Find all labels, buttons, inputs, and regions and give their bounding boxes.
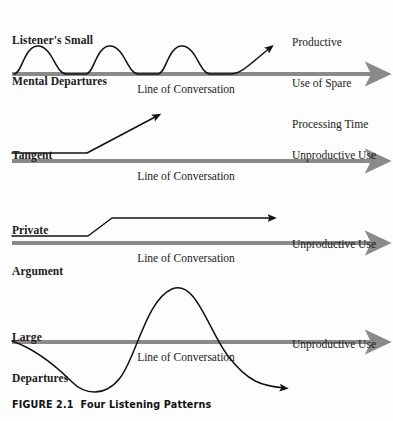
panel-2-left-label: Tangent — [12, 122, 53, 190]
panel-3-right-label-line1: Unproductive Use — [292, 238, 376, 252]
panel-2-right-label: Unproductive Use — [292, 122, 376, 190]
panel-4-right-label-line1: Unproductive Use — [292, 338, 376, 352]
panel-4-left-label: Large Departures — [12, 304, 68, 413]
panel-2-left-label-line1: Tangent — [12, 149, 53, 163]
panel-1-left-label-line2: Mental Departures — [12, 75, 107, 89]
panel-1-axis-label: Line of Conversation — [123, 83, 249, 97]
panel-4-right-label: Unproductive Use — [292, 311, 376, 379]
panel-3-axis-label: Line of Conversation — [123, 252, 249, 266]
figure-caption: FIGURE 2.1Four Listening Patterns — [12, 399, 211, 410]
panel-4-axis-label: Line of Conversation — [123, 351, 249, 365]
panel-1-right-label-line1: Productive — [292, 36, 368, 50]
panel-2-right-label-line1: Unproductive Use — [292, 149, 376, 163]
panel-3-left-label-line1: Private — [12, 224, 63, 238]
panel-1-left-label-line1: Listener's Small — [12, 34, 107, 48]
panel-2-axis-label: Line of Conversation — [123, 170, 249, 184]
figure-four-listening-patterns: Listener's Small Mental Departures Produ… — [0, 0, 393, 421]
panel-3-left-label-line2: Argument — [12, 265, 63, 279]
panel-1-left-label: Listener's Small Mental Departures — [12, 7, 107, 116]
figure-caption-label: FIGURE 2.1 — [12, 399, 74, 410]
panel-3-left-label: Private Argument — [12, 197, 63, 306]
panel-1-right-label-line2: Use of Spare — [292, 77, 368, 91]
panel-4-left-label-line1: Large — [12, 331, 68, 345]
figure-caption-title: Four Listening Patterns — [74, 399, 212, 410]
panel-4-left-label-line2: Departures — [12, 372, 68, 386]
panel-3-right-label: Unproductive Use — [292, 211, 376, 279]
